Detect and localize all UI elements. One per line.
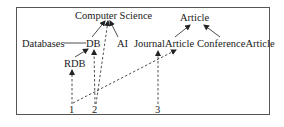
node-computer-science: Computer Science [75,10,152,22]
instance-1: 1 [69,104,74,116]
edge-db-to-computer-science [92,21,105,37]
node-databases: Databases [22,38,65,50]
edge-1-to-journalarticle [73,50,176,103]
node-db: DB [86,38,101,50]
instance-2: 2 [92,104,97,116]
edge-journalarticle-to-article [175,25,190,37]
node-rdb: RDB [64,58,86,70]
edge-2-to-db [94,50,95,104]
node-journal-article: JournalArticle [134,38,194,50]
edge-conferencearticle-to-article [204,25,220,37]
node-conference-article: ConferenceArticle [197,38,275,50]
node-ai: AI [117,38,128,50]
edge-rdb-to-db [75,49,88,57]
edge-ai-to-computer-science [110,21,118,37]
instance-3: 3 [155,104,160,116]
edge-2-to-computer-science [96,21,108,104]
node-article: Article [180,12,209,24]
